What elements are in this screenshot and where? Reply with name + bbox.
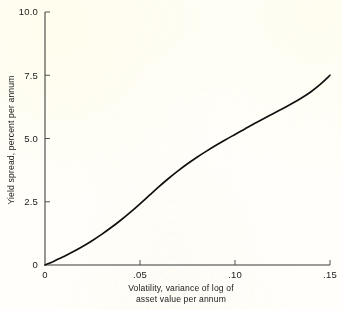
y-axis-title: Yield spread, percent per annum: [6, 75, 16, 204]
x-axis-tick-label: .05: [133, 269, 147, 280]
chart-background: [0, 0, 342, 310]
y-axis-tick-label: 10.0: [19, 6, 38, 17]
y-axis-tick-label: 5.0: [24, 133, 38, 144]
y-axis-tick-label: 0: [33, 259, 38, 270]
x-axis-title-line1: Volatility, variance of log of: [128, 283, 234, 293]
y-axis-tick-label: 2.5: [24, 196, 38, 207]
chart-figure: 02.55.07.510.0 0.05.10.15 Yield spread, …: [0, 0, 342, 310]
yield-spread-volatility-line-chart: 02.55.07.510.0 0.05.10.15 Yield spread, …: [0, 0, 342, 310]
y-axis-tick-label: 7.5: [24, 70, 38, 81]
x-axis-title-line2: asset value per annum: [136, 294, 226, 304]
x-axis-tick-label: .10: [228, 269, 242, 280]
x-axis-tick-label: .15: [323, 269, 337, 280]
x-axis-tick-label: 0: [42, 269, 47, 280]
